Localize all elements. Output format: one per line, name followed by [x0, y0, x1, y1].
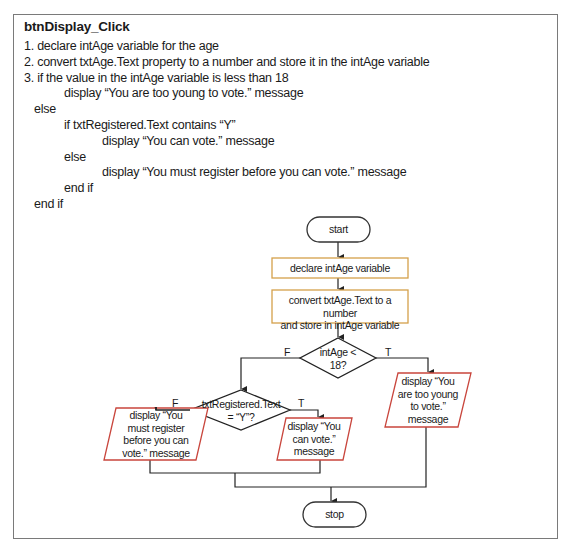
can-vote-label: display “You can vote.” message — [280, 420, 348, 458]
age-true-label: T — [385, 346, 391, 358]
start-label: start — [307, 223, 370, 236]
stop-label: stop — [303, 508, 366, 521]
age-decision-label: intAge < 18? — [304, 346, 372, 371]
convert-label: convert txtAge.Text to a number and stor… — [272, 294, 408, 332]
age-false-label: F — [284, 346, 290, 358]
registered-decision-label: txtRegistered.Text = “Y”? — [192, 398, 290, 423]
declare-label: declare intAge variable — [272, 262, 408, 275]
registered-false-label: F — [172, 397, 178, 409]
too-young-label: display “You are too young to vote.” mes… — [390, 375, 466, 425]
must-register-label: display “You must register before you ca… — [108, 409, 204, 459]
registered-true-label: T — [298, 397, 304, 409]
